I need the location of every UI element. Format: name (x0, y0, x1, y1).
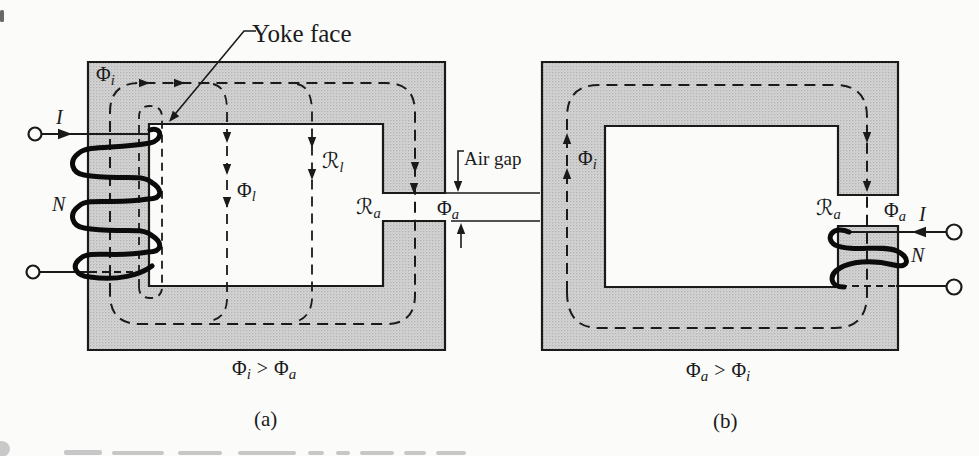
airgap-dim-arrow-down (454, 181, 462, 192)
panel-b: Φi ℛa Φa I N Φa>Φi (b) (542, 62, 962, 433)
caption-b: Φa>Φi (686, 359, 750, 384)
panel-a: Yoke face Φi I N Φl ℛl ℛa Φa Air gap Φi>… (27, 20, 541, 431)
rel-gap-label-a: ℛa (356, 194, 381, 221)
caption-a: Φi>Φa (232, 357, 296, 382)
current-label-b: I (918, 203, 927, 225)
scan-smudge-bottom-left (0, 441, 10, 456)
air-gap-label: Air gap (464, 148, 522, 169)
core-b (542, 62, 898, 350)
cutoff-caption-strip (64, 450, 466, 455)
rel-leak-label-a: ℛl (322, 148, 344, 175)
panel-label-b: (b) (713, 409, 738, 433)
flux-gap-label-a: Φa (437, 197, 459, 222)
flux-arrow (308, 137, 316, 148)
core-a (88, 62, 445, 350)
rel-gap-label-b: ℛa (816, 195, 841, 222)
flux-leak-label-a: Φl (237, 179, 256, 204)
current-arrow-a (58, 129, 72, 139)
flux-arrow (308, 169, 316, 180)
magnetic-circuit-figure: Yoke face Φi I N Φl ℛl ℛa Φa Air gap Φi>… (0, 0, 979, 456)
scan-speck-top-left (0, 10, 4, 22)
current-label-a: I (55, 106, 64, 128)
panel-label-a: (a) (254, 407, 277, 431)
flux-gap-label-b: Φa (884, 199, 906, 224)
figure-canvas: Yoke face Φi I N Φl ℛl ℛa Φa Air gap Φi>… (0, 0, 979, 456)
turns-label-b: N (910, 244, 926, 266)
terminal-top-a (29, 128, 42, 141)
airgap-dim-arrow-up (457, 223, 465, 234)
flux-arrow (223, 164, 231, 175)
terminal-bottom-b (947, 280, 962, 295)
flux-arrow (223, 197, 231, 208)
terminal-top-b (947, 225, 962, 240)
turns-label-a: N (51, 193, 67, 215)
yoke-face-label: Yoke face (252, 20, 352, 47)
terminal-bottom-a (27, 266, 40, 279)
flux-arrow (223, 132, 231, 143)
current-arrow-b (912, 227, 926, 237)
